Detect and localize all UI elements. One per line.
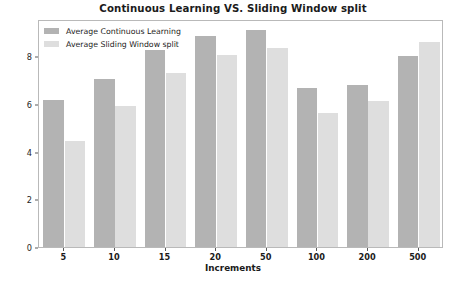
legend-item-continuous-learning: Average Continuous Learning — [44, 25, 181, 37]
x-tick-label: 10 — [108, 252, 119, 262]
x-tick-label: 20 — [209, 252, 220, 262]
legend-label-sliding-window: Average Sliding Window split — [66, 40, 179, 49]
y-tick-label: 2 — [10, 196, 32, 204]
bar — [195, 36, 216, 247]
bar — [267, 48, 288, 247]
legend-swatch-icon-sliding-window — [44, 41, 59, 47]
bar — [145, 50, 166, 247]
x-tick-mark — [266, 248, 267, 251]
legend-label-continuous-learning: Average Continuous Learning — [66, 27, 181, 36]
bar — [94, 79, 115, 247]
x-tick-mark — [215, 248, 216, 251]
x-tick-mark — [165, 248, 166, 251]
chart-legend: Average Continuous Learning Average Slid… — [44, 25, 181, 51]
legend-swatch-icon-continuous-learning — [44, 28, 59, 34]
chart-title: Continuous Learning VS. Sliding Window s… — [0, 3, 466, 14]
bar — [115, 106, 136, 247]
x-tick-label: 15 — [159, 252, 170, 262]
bar — [318, 113, 339, 247]
x-tick-mark — [114, 248, 115, 251]
bar — [368, 101, 389, 247]
bar — [166, 73, 187, 247]
legend-item-sliding-window: Average Sliding Window split — [44, 38, 181, 50]
bar — [246, 30, 267, 247]
bar — [347, 85, 368, 247]
x-tick-label: 5 — [60, 252, 66, 262]
y-tick-label: 8 — [10, 53, 32, 61]
chart-figure: Continuous Learning VS. Sliding Window s… — [0, 0, 466, 287]
bar — [419, 42, 440, 247]
x-tick-mark — [63, 248, 64, 251]
x-tick-mark — [316, 248, 317, 251]
bar — [398, 56, 419, 247]
bars-container — [39, 21, 442, 247]
x-tick-label: 200 — [359, 252, 376, 262]
bar — [217, 55, 238, 247]
x-tick-label: 500 — [409, 252, 426, 262]
y-tick-label: 0 — [10, 244, 32, 252]
x-tick-label: 100 — [308, 252, 325, 262]
y-tick-label: 6 — [10, 101, 32, 109]
plot-area — [38, 20, 443, 248]
x-axis-label: Increments — [0, 263, 466, 273]
x-tick-mark — [367, 248, 368, 251]
bar — [65, 141, 86, 247]
bar — [297, 88, 318, 247]
x-tick-mark — [418, 248, 419, 251]
x-tick-label: 50 — [260, 252, 271, 262]
bar — [43, 100, 64, 247]
y-tick-label: 4 — [10, 148, 32, 156]
